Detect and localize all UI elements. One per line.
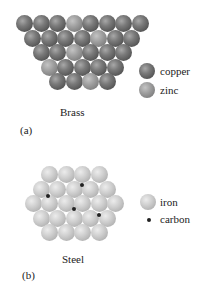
steel-panel: iron carbon Steel (b) — [0, 0, 207, 283]
carbon-atom — [80, 183, 84, 187]
carbon-atom — [97, 213, 101, 217]
iron-atom — [74, 224, 91, 241]
carbon-legend-label: carbon — [160, 213, 190, 225]
carbon-atom — [46, 194, 50, 198]
iron-atom — [41, 224, 58, 241]
panel-label-b: (b) — [22, 269, 35, 281]
iron-legend-icon — [140, 194, 156, 210]
iron-atom — [91, 224, 108, 241]
steel-title: Steel — [62, 253, 84, 265]
carbon-legend-icon — [147, 218, 151, 222]
iron-legend-label: iron — [160, 196, 178, 208]
iron-atom — [58, 224, 75, 241]
carbon-atom — [72, 207, 76, 211]
